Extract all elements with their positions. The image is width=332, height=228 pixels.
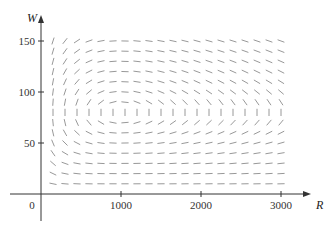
slope-segment bbox=[121, 122, 128, 123]
slope-segment bbox=[278, 142, 285, 144]
slope-segment bbox=[218, 131, 225, 134]
slope-segment bbox=[61, 184, 68, 185]
slope-segment bbox=[230, 70, 237, 73]
slope-segment bbox=[206, 80, 212, 83]
slope-segment bbox=[219, 99, 223, 105]
slope-segment bbox=[61, 173, 68, 174]
slope-segment bbox=[278, 60, 285, 63]
slope-segment bbox=[86, 90, 91, 95]
slope-segment bbox=[205, 153, 212, 154]
x-tick-label: 2000 bbox=[190, 199, 213, 211]
slope-segment bbox=[74, 69, 79, 74]
slope-segment bbox=[97, 61, 104, 63]
slope-segment bbox=[145, 51, 152, 52]
slope-segment bbox=[49, 183, 56, 184]
slope-segment bbox=[182, 70, 189, 72]
slope-segment bbox=[194, 90, 200, 94]
slope-segment bbox=[63, 48, 67, 54]
slope-segment bbox=[266, 40, 273, 42]
slope-segment bbox=[229, 153, 236, 154]
slope-segment bbox=[279, 120, 284, 126]
x-axis-arrow-icon bbox=[303, 191, 311, 197]
slope-segment bbox=[64, 119, 66, 126]
slope-segment bbox=[278, 90, 283, 95]
slope-segment bbox=[85, 153, 92, 154]
slope-segment bbox=[206, 60, 213, 62]
slope-segment bbox=[146, 121, 153, 124]
slope-segment bbox=[218, 40, 225, 42]
slope-segment bbox=[205, 142, 212, 144]
slope-segment bbox=[157, 51, 164, 52]
slope-segment bbox=[278, 50, 285, 53]
slope-segment bbox=[206, 131, 213, 134]
slope-segment bbox=[87, 120, 92, 126]
slope-segment bbox=[254, 142, 261, 144]
slope-segment bbox=[254, 80, 260, 84]
slope-segment bbox=[75, 79, 80, 84]
slope-segment bbox=[170, 100, 175, 105]
slope-segment bbox=[241, 163, 248, 164]
slope-segment bbox=[267, 99, 271, 105]
slope-segment bbox=[265, 163, 272, 164]
slope-segment bbox=[86, 50, 93, 53]
slope-segment bbox=[133, 91, 140, 93]
y-axis-arrow-icon bbox=[38, 15, 44, 23]
slope-segment bbox=[50, 172, 56, 175]
slope-segment bbox=[63, 38, 67, 44]
slope-segment bbox=[158, 132, 165, 134]
slope-segment bbox=[277, 153, 284, 154]
slope-segment bbox=[170, 60, 177, 62]
slope-segment bbox=[73, 163, 80, 164]
slope-segment bbox=[86, 131, 92, 134]
slope-segment bbox=[157, 153, 164, 154]
slope-segment bbox=[74, 59, 80, 64]
slope-segment bbox=[242, 50, 249, 52]
slope-segment bbox=[109, 71, 116, 72]
slope-segment bbox=[207, 99, 212, 105]
slope-segment bbox=[206, 70, 213, 73]
slope-segment bbox=[218, 80, 224, 83]
slope-segment bbox=[266, 142, 273, 144]
slope-segment bbox=[278, 40, 285, 42]
slope-segment bbox=[217, 153, 224, 154]
slope-segment bbox=[169, 40, 176, 42]
slope-segment bbox=[230, 50, 237, 52]
slope-segment bbox=[109, 133, 116, 134]
slope-segment bbox=[98, 100, 104, 104]
slope-segment bbox=[181, 142, 188, 143]
slope-segment bbox=[145, 61, 152, 62]
slope-segment bbox=[241, 153, 248, 154]
slope-segment bbox=[170, 90, 176, 93]
slope-segment bbox=[74, 49, 80, 53]
slope-segment bbox=[266, 80, 272, 84]
x-tick-label: 1000 bbox=[110, 199, 133, 211]
slope-segment bbox=[53, 88, 54, 95]
origin-label: 0 bbox=[29, 199, 35, 211]
slope-segment bbox=[182, 90, 188, 94]
slope-segment bbox=[62, 162, 69, 164]
slope-segment bbox=[63, 58, 67, 64]
slope-segment bbox=[97, 51, 104, 52]
slope-segment bbox=[265, 153, 272, 154]
slope-segment bbox=[158, 81, 165, 83]
slope-segment bbox=[98, 121, 104, 125]
slope-segments bbox=[49, 38, 284, 185]
slope-segment bbox=[86, 142, 93, 144]
slope-segment bbox=[63, 130, 67, 136]
slope-segment bbox=[170, 71, 177, 73]
slope-segment bbox=[242, 60, 249, 63]
y-tick-label: 150 bbox=[19, 35, 36, 47]
slope-segment bbox=[133, 51, 140, 52]
slope-segment bbox=[242, 142, 249, 144]
slope-segment bbox=[266, 70, 272, 73]
slope-segment bbox=[182, 132, 189, 134]
slope-segment bbox=[51, 150, 55, 156]
slope-segment bbox=[279, 99, 283, 105]
slope-segment bbox=[53, 99, 54, 106]
slope-segment bbox=[206, 50, 213, 52]
slope-segment bbox=[195, 100, 200, 105]
slope-segment bbox=[87, 99, 91, 105]
slope-segment bbox=[254, 50, 261, 53]
slope-segment bbox=[277, 163, 284, 164]
slope-segment bbox=[52, 129, 54, 136]
